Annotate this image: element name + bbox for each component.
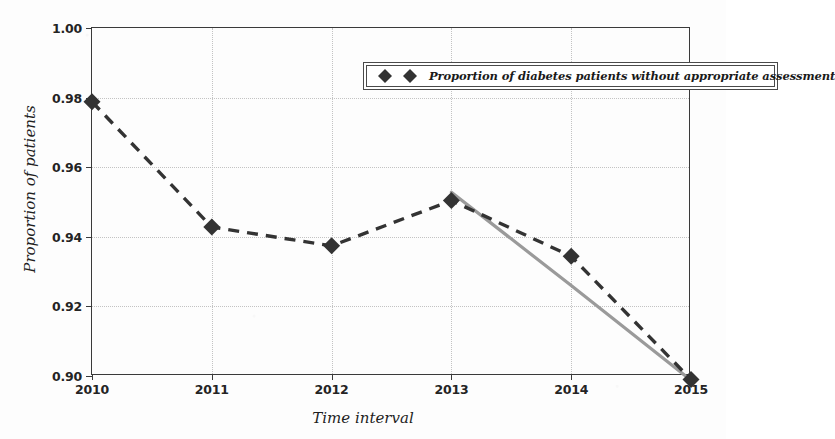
series-markers [84,93,700,388]
y-tick-label: 0.96 [52,160,82,175]
data-point-marker [443,192,460,209]
data-point-marker [563,248,580,265]
x-tick-label: 2013 [434,382,468,397]
y-tick-label: 0.94 [52,229,82,244]
x-tick-label: 2010 [75,382,109,397]
trend-line [451,192,691,380]
legend-diamond-marker-icon [373,67,425,85]
legend-label: Proportion of diabetes patients without … [429,69,835,83]
plot-area: 0.900.920.940.960.981.00 201020112012201… [91,27,690,375]
chart-legend: Proportion of diabetes patients without … [363,62,778,90]
y-tick-label: 1.00 [52,21,82,36]
x-tick-label: 2012 [315,382,349,397]
data-point-marker [323,237,340,254]
x-tick-label: 2014 [554,382,588,397]
y-tick-label: 0.98 [52,90,82,105]
legend-inner-frame: Proportion of diabetes patients without … [366,65,775,87]
y-axis-title: Proportion of patients [21,99,39,279]
data-point-marker [203,219,220,236]
x-tick-label: 2011 [195,382,229,397]
y-tick-label: 0.92 [52,299,82,314]
series-line-diabetes-proportion [92,102,691,380]
x-axis-title: Time interval [0,409,726,427]
